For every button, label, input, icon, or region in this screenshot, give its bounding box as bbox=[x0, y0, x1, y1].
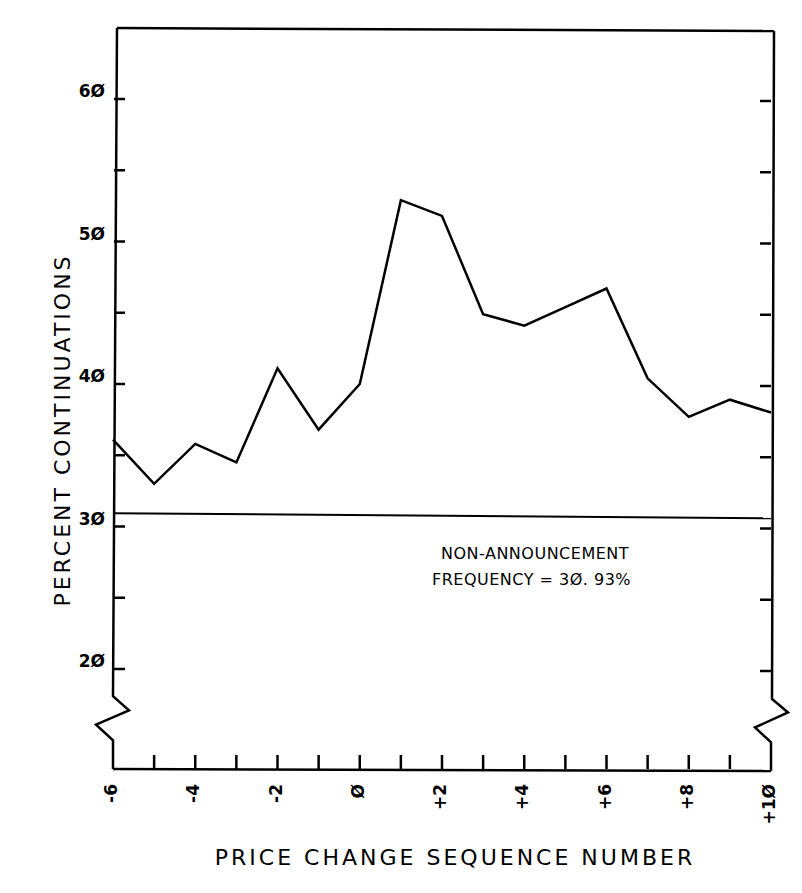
y-axis-tick-labels: 2Ø3Ø4Ø5Ø6Ø bbox=[79, 81, 105, 671]
y-axis-title: PERCENT CONTINUATIONS bbox=[50, 253, 75, 606]
x-tick-label: -4 bbox=[183, 784, 203, 803]
x-tick-label: +6 bbox=[595, 784, 615, 810]
y-tick-label: 3Ø bbox=[79, 509, 105, 529]
x-tick-label: +4 bbox=[512, 784, 532, 810]
plot-frame bbox=[96, 28, 788, 771]
x-tick-label: Ø bbox=[348, 784, 368, 798]
x-axis-tick-labels: -6-4-2Ø+2+4+6+8+1Ø bbox=[101, 784, 779, 825]
x-axis-ticks bbox=[154, 755, 730, 769]
y-tick-label: 4Ø bbox=[79, 366, 105, 386]
data-series-line bbox=[113, 200, 771, 484]
x-tick-label: -2 bbox=[266, 784, 286, 803]
x-axis-title: PRICE CHANGE SEQUENCE NUMBER bbox=[215, 845, 695, 870]
y-tick-label: 6Ø bbox=[79, 81, 105, 101]
x-tick-label: +1Ø bbox=[759, 784, 779, 825]
line-chart: 2Ø3Ø4Ø5Ø6Ø -6-4-2Ø+2+4+6+8+1Ø NON-ANNOUN… bbox=[0, 0, 802, 893]
annotation-line-1: NON-ANNOUNCEMENT bbox=[441, 544, 629, 563]
frame-bottom-axis bbox=[113, 769, 771, 771]
y-tick-label: 2Ø bbox=[79, 651, 105, 671]
x-tick-label: +2 bbox=[430, 784, 450, 810]
frame-right-axis bbox=[755, 31, 788, 771]
non-announcement-reference-line bbox=[113, 513, 771, 518]
y-tick-label: 5Ø bbox=[79, 224, 105, 244]
frame-top-axis bbox=[117, 28, 774, 31]
annotation-line-2: FREQUENCY = 3Ø. 93% bbox=[432, 570, 631, 589]
x-tick-label: +8 bbox=[677, 784, 697, 810]
x-tick-label: -6 bbox=[101, 784, 121, 803]
